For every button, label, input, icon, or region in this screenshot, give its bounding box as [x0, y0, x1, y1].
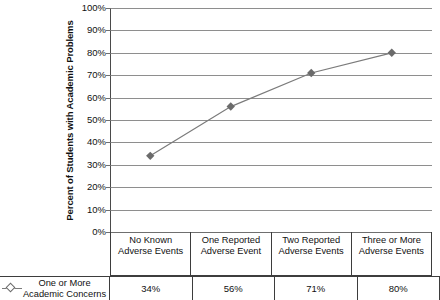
chart-figure: Percent of Students with Academic Proble…: [0, 0, 440, 300]
value-cell: 71%: [275, 277, 358, 300]
legend-diamond-marker-icon: [2, 282, 22, 296]
value-cell: 80%: [358, 277, 440, 300]
data-point-marker: [146, 152, 154, 160]
data-point-marker: [388, 49, 396, 57]
category-header-line: No Known: [129, 235, 172, 246]
series-one-or-more-academic-concerns: [110, 8, 432, 232]
y-tick-label: 10%: [87, 205, 106, 215]
y-tick-label: 100%: [82, 3, 106, 13]
legend-label-line: One or More: [22, 278, 107, 289]
legend-entry: One or MoreAcademic Concerns: [0, 277, 110, 300]
category-header-line: Adverse Events: [279, 246, 344, 257]
y-tick-label: 20%: [87, 182, 106, 192]
value-cell: 56%: [193, 277, 276, 300]
category-header-line: Two Reported: [282, 235, 340, 246]
category-header-line: Adverse Event: [201, 246, 261, 257]
category-header-cell: No KnownAdverse Events: [111, 232, 191, 275]
data-point-marker: [227, 102, 235, 110]
y-tick-label: 90%: [87, 25, 106, 35]
category-header-cell: One ReportedAdverse Event: [191, 232, 271, 275]
y-axis-tick-labels: 100%90%80%70%60%50%40%30%20%10%0%: [62, 0, 106, 240]
category-header-cell: Three or MoreAdverse Events: [352, 232, 431, 275]
y-tick-label: 40%: [87, 137, 106, 147]
y-tick-label: 50%: [87, 115, 106, 125]
category-header-line: Adverse Events: [118, 246, 183, 257]
y-tick-label: 0%: [92, 227, 106, 237]
value-cells: 34%56%71%80%: [110, 277, 440, 300]
category-header-line: One Reported: [202, 235, 260, 246]
legend-label-line: Academic Concerns: [22, 289, 107, 300]
y-tick-label: 60%: [87, 93, 106, 103]
category-header-cell: Two ReportedAdverse Events: [272, 232, 352, 275]
y-tick-label: 80%: [87, 48, 106, 58]
value-cell: 34%: [110, 277, 193, 300]
data-point-marker: [307, 69, 315, 77]
y-tick-label: 70%: [87, 70, 106, 80]
category-header-line: Adverse Events: [359, 246, 424, 257]
legend-label: One or MoreAcademic Concerns: [22, 278, 109, 300]
plot-area: [110, 8, 432, 232]
category-header-table: No KnownAdverse EventsOne ReportedAdvers…: [110, 232, 432, 276]
y-tick-label: 30%: [87, 160, 106, 170]
legend-value-row: One or MoreAcademic Concerns 34%56%71%80…: [0, 276, 440, 300]
category-header-line: Three or More: [362, 235, 421, 246]
